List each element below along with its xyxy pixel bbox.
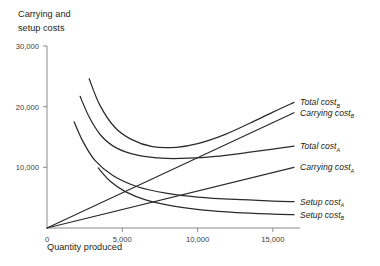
y-axis-title-line1: Carrying and — [18, 9, 71, 19]
series-curve-carrying-cost-b — [47, 113, 294, 228]
series-label-subscript: B — [351, 113, 355, 119]
y-tick-label: 20,000 — [16, 103, 39, 112]
cost-curves-chart: Carrying and setup costs 10,00020,00030,… — [0, 0, 380, 266]
y-tick-label: 30,000 — [16, 42, 39, 51]
series-label-setup-cost-b: Setup costB — [300, 210, 345, 221]
series-label-carrying-cost-a: Carrying costA — [300, 162, 355, 173]
x-tick-label: 15,000 — [261, 235, 284, 244]
x-axis-title: Quantity produced — [47, 242, 122, 252]
series-label-subscript: A — [350, 168, 355, 174]
series-label-subscript: B — [341, 215, 345, 221]
chart-series-group — [47, 79, 294, 228]
series-label-subscript: A — [335, 147, 340, 153]
y-axis-ticks: 10,00020,00030,000 — [16, 42, 47, 172]
x-tick-label: 10,000 — [186, 235, 209, 244]
y-axis-title-line2: setup costs — [18, 23, 65, 33]
series-label-setup-cost-a: Setup costA — [300, 197, 345, 208]
series-label-subscript: A — [340, 202, 345, 208]
chart-series-labels: Total costBCarrying costBTotal costACarr… — [300, 97, 355, 221]
y-tick-label: 10,000 — [16, 163, 39, 172]
series-label-total-cost-a: Total costA — [300, 141, 340, 152]
series-curve-total-cost-b — [89, 79, 294, 148]
chart-container: Carrying and setup costs 10,00020,00030,… — [0, 0, 380, 266]
series-curve-setup-cost-a — [74, 122, 294, 202]
series-label-carrying-cost-b: Carrying costB — [300, 108, 355, 119]
series-curve-carrying-cost-a — [47, 167, 294, 228]
